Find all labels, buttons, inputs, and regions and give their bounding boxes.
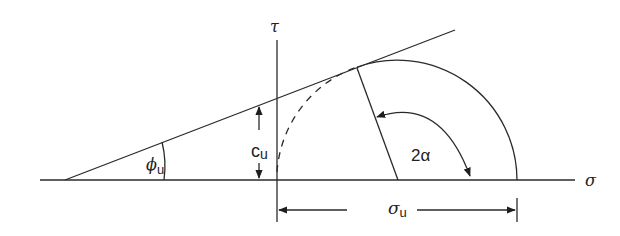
mohr-circle-diagram: τ σ ϕu cu 2α σu (0, 0, 620, 236)
sigma-u-label: σu (388, 198, 407, 220)
radius-line (357, 68, 398, 180)
two-alpha-label: 2α (411, 146, 430, 165)
tau-axis-label: τ (270, 17, 280, 36)
c-u-label: cu (251, 141, 268, 162)
two-alpha-arc (377, 112, 470, 176)
mohr-circle-arc (357, 60, 517, 180)
sigma-axis-label: σ (585, 171, 597, 190)
phi-u-label: ϕu (146, 155, 164, 177)
